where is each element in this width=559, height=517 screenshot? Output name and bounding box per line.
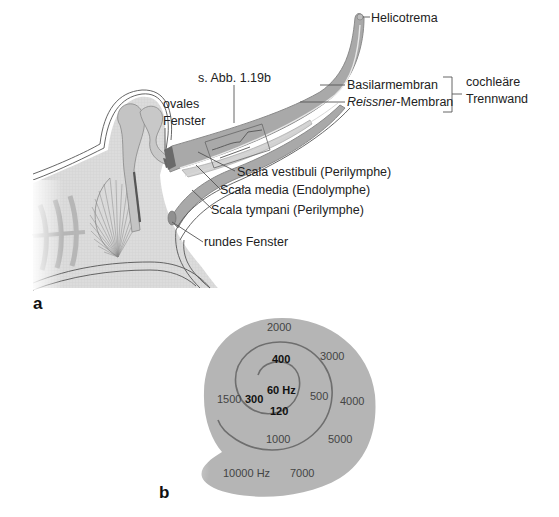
panel-letter-b: b <box>159 483 169 502</box>
freq-500: 500 <box>310 390 328 402</box>
panel-a-anatomy: Helicotrema Basilarmembran Reissner-Memb… <box>33 11 528 313</box>
label-scala-vestibuli: Scala vestibuli (Perilymphe) <box>237 165 391 179</box>
freq-400: 400 <box>272 353 290 365</box>
cochlea-diagram: Helicotrema Basilarmembran Reissner-Memb… <box>0 0 559 517</box>
label-cochlear-partition-1: cochleäre <box>466 75 520 89</box>
label-round-window: rundes Fenster <box>204 235 288 249</box>
freq-5000: 5000 <box>328 433 352 445</box>
panel-letter-a: a <box>33 294 43 313</box>
freq-1500: 1500 <box>217 393 241 405</box>
freq-2000: 2000 <box>267 321 291 333</box>
label-basilar-membrane: Basilarmembran <box>347 78 438 92</box>
label-reissner-suffix: -Membran <box>396 95 453 109</box>
label-cochlear-partition-2: Trennwand <box>466 92 528 106</box>
freq-10000hz: 10000 Hz <box>223 467 270 479</box>
freq-7000: 7000 <box>290 467 314 479</box>
freq-4000: 4000 <box>340 395 364 407</box>
freq-120: 120 <box>270 405 288 417</box>
label-scala-media: Scala media (Endolymphe) <box>220 183 370 197</box>
freq-3000: 3000 <box>320 350 344 362</box>
label-reissner-italic: Reissner <box>347 95 397 109</box>
label-oval-window-2: Fenster <box>163 114 205 128</box>
label-scala-tympani: Scala tympani (Perilymphe) <box>211 203 364 217</box>
label-see-figure: s. Abb. 1.19b <box>198 71 271 85</box>
panel-b-tonotopy-spiral: 2000 400 3000 60 Hz 1500 300 500 4000 12… <box>150 318 376 502</box>
freq-1000: 1000 <box>266 433 290 445</box>
freq-300: 300 <box>245 393 263 405</box>
label-helicotrema: Helicotrema <box>371 11 438 25</box>
label-oval-window-1: ovales <box>163 97 199 111</box>
freq-60hz: 60 Hz <box>267 384 296 396</box>
label-reissner-membrane: Reissner-Membran <box>347 95 453 109</box>
